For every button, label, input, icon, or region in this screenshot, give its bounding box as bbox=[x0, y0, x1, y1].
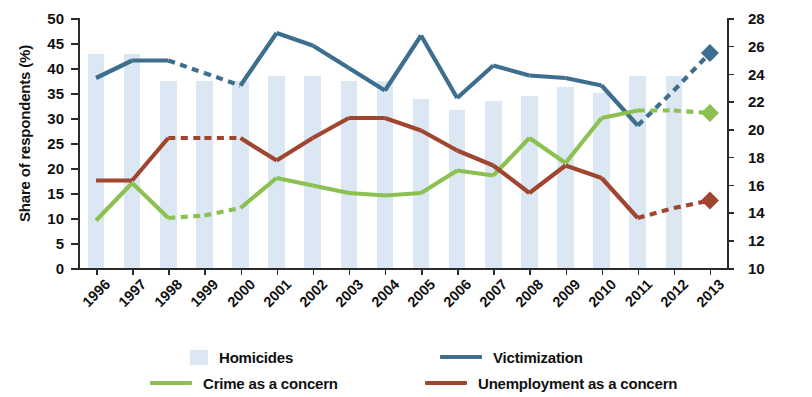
y-tick-right-24: 24 bbox=[748, 65, 765, 82]
y-tickmark-left-35 bbox=[71, 93, 78, 95]
y-tick-right-10: 10 bbox=[748, 260, 765, 277]
segment bbox=[277, 33, 313, 46]
y-tickmark-right-10 bbox=[727, 268, 734, 270]
y-tickmark-right-24 bbox=[727, 74, 734, 76]
segment bbox=[457, 151, 493, 166]
y-tick-left-25: 25 bbox=[47, 135, 64, 152]
y-tickmark-right-22 bbox=[727, 101, 734, 103]
x-label-2006: 2006 bbox=[431, 276, 475, 320]
y-tick-left-30: 30 bbox=[47, 110, 64, 127]
segment bbox=[638, 208, 674, 218]
segment bbox=[529, 76, 565, 79]
x-label-2004: 2004 bbox=[358, 276, 402, 320]
y-tick-left-40: 40 bbox=[47, 60, 64, 77]
y-tick-left-45: 45 bbox=[47, 35, 64, 52]
y-tickmark-right-20 bbox=[727, 129, 734, 131]
segment bbox=[313, 186, 349, 194]
segment bbox=[493, 66, 529, 76]
segment bbox=[313, 46, 349, 69]
line-series-group bbox=[78, 18, 728, 268]
y-tick-right-18: 18 bbox=[748, 148, 765, 165]
segment bbox=[313, 118, 349, 138]
x-label-2003: 2003 bbox=[322, 276, 366, 320]
y-tickmark-left-0 bbox=[71, 268, 78, 270]
x-label-1998: 1998 bbox=[142, 276, 186, 320]
segment bbox=[457, 171, 493, 176]
segment bbox=[204, 73, 240, 86]
segment bbox=[168, 216, 204, 219]
legend-line-swatch-icon bbox=[150, 381, 192, 386]
chart-figure: Share of respondents (%) Homicide rate (… bbox=[0, 0, 812, 397]
legend-item-victimization[interactable]: Victimization bbox=[440, 345, 583, 369]
y-tick-right-28: 28 bbox=[748, 10, 765, 27]
x-label-2010: 2010 bbox=[575, 276, 619, 320]
segment bbox=[349, 68, 385, 91]
legend-item-homicides[interactable]: Homicides bbox=[190, 345, 293, 369]
line-unemployment-as-a-concern bbox=[96, 118, 719, 218]
segment bbox=[96, 183, 132, 221]
legend-label: Homicides bbox=[219, 349, 293, 366]
x-label-2012: 2012 bbox=[647, 276, 691, 320]
y-tickmark-left-25 bbox=[71, 143, 78, 145]
y-tick-right-16: 16 bbox=[748, 176, 765, 193]
y-tickmark-right-26 bbox=[727, 46, 734, 48]
legend-label: Unemployment as a concern bbox=[478, 375, 677, 392]
segment bbox=[566, 166, 602, 179]
segment bbox=[421, 131, 457, 151]
chart-legend: HomicidesVictimizationCrime as a concern… bbox=[150, 345, 710, 395]
y-tick-right-20: 20 bbox=[748, 121, 765, 138]
segment bbox=[674, 53, 710, 91]
segment bbox=[602, 178, 638, 218]
y-tick-left-10: 10 bbox=[47, 210, 64, 227]
diamond-marker-2013 bbox=[701, 192, 719, 210]
y-tick-left-20: 20 bbox=[47, 160, 64, 177]
y-tick-right-12: 12 bbox=[748, 232, 765, 249]
y-tickmark-right-16 bbox=[727, 185, 734, 187]
segment bbox=[602, 86, 638, 126]
segment bbox=[241, 178, 277, 208]
legend-item-unemployment-as-a-concern[interactable]: Unemployment as a concern bbox=[425, 371, 677, 395]
segment bbox=[457, 66, 493, 99]
segment bbox=[638, 91, 674, 126]
segment bbox=[277, 178, 313, 186]
x-label-2008: 2008 bbox=[503, 276, 547, 320]
legend-line-swatch-icon bbox=[440, 355, 482, 360]
y-tickmark-left-15 bbox=[71, 193, 78, 195]
x-label-2011: 2011 bbox=[611, 276, 655, 320]
segment bbox=[493, 166, 529, 194]
x-label-2009: 2009 bbox=[539, 276, 583, 320]
legend-bar-swatch-icon bbox=[190, 350, 208, 365]
y-tick-left-5: 5 bbox=[56, 235, 64, 252]
x-label-2002: 2002 bbox=[286, 276, 330, 320]
segment bbox=[529, 166, 565, 194]
y-tick-right-26: 26 bbox=[748, 37, 765, 54]
segment bbox=[132, 183, 168, 218]
segment bbox=[529, 138, 565, 163]
segment bbox=[421, 171, 457, 194]
legend-line-swatch-icon bbox=[425, 381, 467, 386]
x-label-2000: 2000 bbox=[214, 276, 258, 320]
diamond-marker-2013 bbox=[701, 104, 719, 122]
segment bbox=[168, 61, 204, 74]
segment bbox=[566, 78, 602, 86]
segment bbox=[241, 138, 277, 161]
y-tickmark-left-30 bbox=[71, 118, 78, 120]
x-label-1999: 1999 bbox=[178, 276, 222, 320]
segment bbox=[204, 208, 240, 216]
legend-item-crime-as-a-concern[interactable]: Crime as a concern bbox=[150, 371, 338, 395]
y-tick-right-14: 14 bbox=[748, 204, 765, 221]
x-label-2001: 2001 bbox=[250, 276, 294, 320]
y-tickmark-left-5 bbox=[71, 243, 78, 245]
y-tickmark-left-10 bbox=[71, 218, 78, 220]
segment bbox=[132, 138, 168, 181]
segment bbox=[385, 118, 421, 131]
y-tickmark-left-50 bbox=[71, 18, 78, 20]
y-tickmark-right-18 bbox=[727, 157, 734, 159]
x-label-1997: 1997 bbox=[106, 276, 150, 320]
y-tick-right-22: 22 bbox=[748, 93, 765, 110]
y-tick-left-15: 15 bbox=[47, 185, 64, 202]
plot-area bbox=[78, 18, 728, 268]
segment bbox=[566, 118, 602, 163]
segment bbox=[421, 36, 457, 99]
y-tick-left-50: 50 bbox=[47, 10, 64, 27]
